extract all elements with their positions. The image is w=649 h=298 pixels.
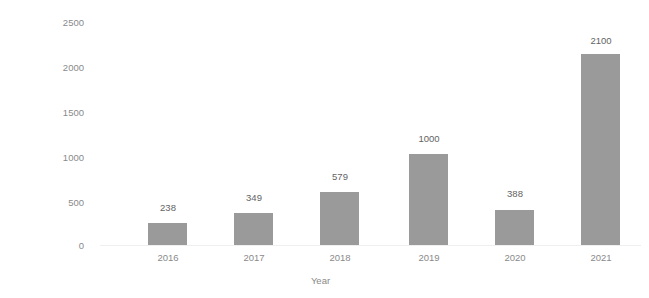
y-tick-label: 500 [44,197,84,208]
bar-value-2020: 388 [480,188,550,199]
x-axis-title: Year [0,275,649,286]
bar-2017[interactable] [234,213,273,245]
bar-2016[interactable] [148,223,187,245]
x-axis-baseline [100,245,641,246]
x-tick-label-2019: 2019 [394,252,464,263]
y-tick-label: 2500 [44,17,84,28]
bar-2018[interactable] [320,192,359,245]
y-tick-label: 1500 [44,107,84,118]
bar-2019[interactable] [409,154,448,245]
x-tick-label-2018: 2018 [305,252,375,263]
bar-chart: Funding (in million $) 2500 2000 1500 10… [0,0,649,298]
bar-2020[interactable] [495,210,534,245]
bar-value-2018: 579 [305,171,375,182]
bar-value-2016: 238 [133,202,203,213]
bar-value-2021: 2100 [566,35,636,46]
x-axis-title-text: Year [311,275,330,286]
y-tick-label: 0 [44,240,84,251]
bar-value-2017: 349 [219,192,289,203]
y-tick-label: 1000 [44,152,84,163]
x-tick-label-2020: 2020 [480,252,550,263]
x-tick-label-2021: 2021 [566,252,636,263]
bar-2021[interactable] [581,54,620,245]
y-axis-ticks: 2500 2000 1500 1000 500 0 [42,0,84,298]
bar-value-2019: 1000 [394,133,464,144]
x-tick-label-2016: 2016 [133,252,203,263]
y-tick-label: 2000 [44,62,84,73]
x-tick-label-2017: 2017 [219,252,289,263]
